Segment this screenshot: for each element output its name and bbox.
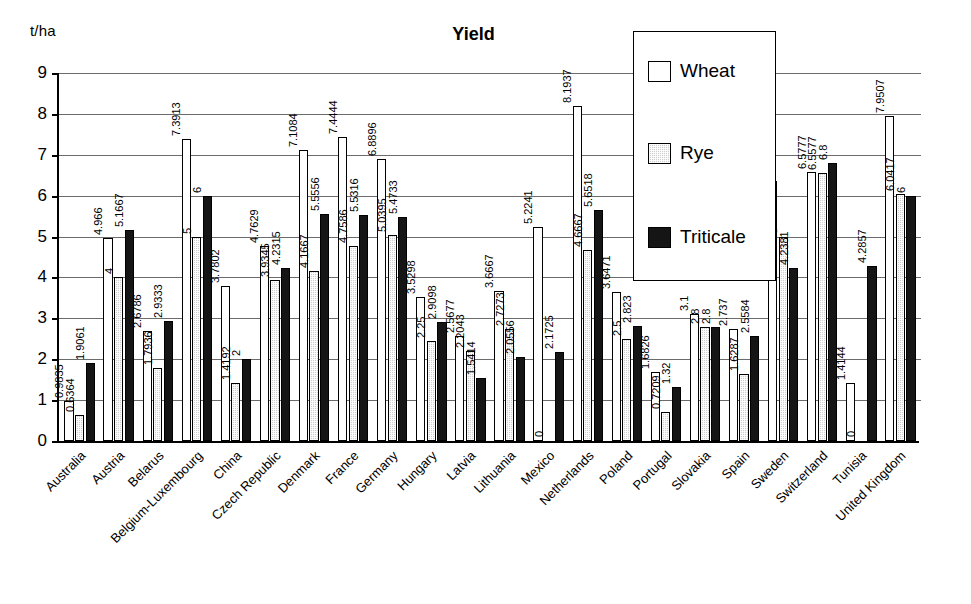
bar-group: 6.88965.03955.4733 [377,73,407,441]
bar-rye: 5.0395 [388,235,397,441]
bar-triticale: 5.1667 [125,230,134,441]
bar-value-label: 4.2381 [779,231,790,269]
bar-value-label: 2.5584 [740,300,751,338]
bar-value-label: 3.6471 [601,255,612,293]
bar-triticale: 2 [242,359,251,441]
bar-value-label: 2.6786 [132,295,143,333]
bar-value-label: 6 [192,187,203,197]
bar-group: 0.98350.63641.9061 [64,73,94,441]
bar-value-label: 5.1667 [114,193,125,231]
bar-triticale: 5.6518 [594,210,603,441]
bar-value-label: 1.6826 [640,336,651,374]
bar-rye: 6.5577 [818,173,827,441]
bar-group: 4.76293.93454.2315 [260,73,290,441]
y-axis-tick-label: 5 [19,228,47,245]
chart-title: Yield [0,24,959,45]
bar-rye: 0.7209 [661,412,670,441]
bar-wheat: 3.6471 [612,292,621,441]
bar-value-label: 5.6518 [583,173,594,211]
bar-triticale: 6 [906,196,915,441]
bar-value-label: 2.1725 [544,316,555,354]
y-axis-tick [52,318,59,320]
chart-legend: Wheat Rye Triticale [633,31,776,281]
bar-rye: 2.8 [700,327,709,441]
bar-value-label: 4.7586 [338,210,349,248]
y-axis-tick-label: 9 [19,64,47,81]
bar-wheat: 7.3913 [182,139,191,441]
bar-value-label: 7.3913 [171,102,182,140]
y-axis-tick-label: 3 [19,309,47,326]
bar-rye: 4.7586 [349,246,358,441]
bar-value-label: 3.7802 [210,250,221,288]
bar-group: 3.52982.252.9098 [416,73,446,441]
legend-swatch-wheat-icon [648,61,671,82]
bar-group: 7.391356 [182,73,212,441]
bar-value-label: 2.25 [416,316,427,341]
bar-value-label: 4.1667 [299,234,310,272]
bar-value-label: 6.8896 [367,123,378,161]
bar-rye: 3.9345 [270,280,279,441]
bar-rye: 1.4192 [231,383,240,441]
bar-value-label: 8.1937 [562,69,573,107]
bar-value-label: 0 [534,431,545,441]
bar-value-label: 2 [231,350,242,360]
y-axis-tick-label: 4 [19,268,47,285]
bar-value-label: 1.5414 [466,341,477,379]
bar-group: 5.224102.1725 [533,73,563,441]
bar-group: 3.78021.41922 [221,73,251,441]
bar-triticale: 2.1725 [555,352,564,441]
legend-item-triticale: Triticale [648,226,746,248]
y-axis-tick [52,114,59,116]
legend-label-wheat: Wheat [680,60,735,82]
bar-wheat: 5.2241 [533,227,542,441]
bar-value-label: 3.5298 [406,260,417,298]
bar-group: 6.57776.55776.8 [807,73,837,441]
y-axis-tick [52,237,59,239]
y-axis-tick-label: 8 [19,105,47,122]
bar-value-label: 2.737 [718,299,729,331]
bar-value-label: 4.2857 [857,229,868,267]
y-axis-tick [52,359,59,361]
x-axis-label: Switzerland [679,448,831,600]
y-axis-tick [52,196,59,198]
bar-triticale: 4.2315 [281,268,290,441]
y-axis-tick [52,155,59,157]
bar-value-label: 4 [104,268,115,278]
bar-triticale: 4.2381 [789,268,798,441]
legend-item-wheat: Wheat [648,60,735,82]
x-axis-label: United Kingdom [757,448,909,600]
bar-value-label: 0.6364 [65,378,76,416]
bar-triticale: 6.8 [828,163,837,441]
bar-value-label: 0 [846,431,857,441]
bar-group: 3.66672.72732.0556 [494,73,524,441]
bar-rye: 2.25 [427,341,436,441]
bar-triticale: 5.4733 [398,217,407,441]
legend-swatch-triticale-icon [648,227,671,248]
plot-area: 01234567890.98350.63641.90614.96645.1667… [57,73,919,443]
bar-group: 1.414404.2857 [846,73,876,441]
yield-bar-chart: t/ha Yield 01234567890.98350.63641.90614… [0,0,971,604]
bar-rye: 4.1667 [309,271,318,441]
bar-value-label: 2.9333 [153,284,164,322]
bar-rye: 1.6287 [739,374,748,441]
bar-value-label: 2.9098 [427,285,438,323]
bar-value-label: 1.32 [661,363,672,388]
bar-value-label: 1.9061 [75,326,86,364]
bar-value-label: 5.5316 [349,178,360,216]
bar-wheat: 7.4444 [338,137,347,441]
bar-value-label: 1.7936 [143,331,154,369]
bar-value-label: 6.8 [818,145,829,164]
y-axis-tick [52,277,59,279]
y-axis-tick-label: 0 [19,432,47,449]
bar-value-label: 4.2315 [271,231,282,269]
bar-group: 8.19374.66675.6518 [573,73,603,441]
bar-rye: 1.7936 [153,368,162,441]
bar-triticale: 4.2857 [867,266,876,441]
bar-value-label: 5.4733 [388,181,399,219]
legend-label-triticale: Triticale [680,226,746,248]
legend-label-rye: Rye [680,142,714,164]
bar-value-label: 2.0556 [505,320,516,358]
y-axis-tick [52,441,59,443]
bar-value-label: 7.9507 [875,79,886,117]
bar-value-label: 3.6667 [484,254,495,292]
